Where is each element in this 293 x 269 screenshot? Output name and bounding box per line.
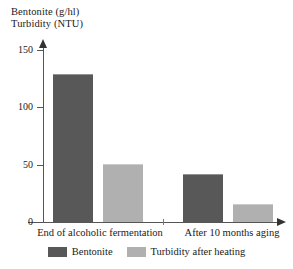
category-divider-tick [163,219,164,225]
y-tick-label-100: 100 [3,102,33,112]
bar-turbidity-after-10-months [233,204,273,222]
legend-label-bentonite: Bentonite [72,246,113,258]
bar-bentonite-after-10-months [183,174,223,222]
y-tick-label-150: 150 [3,45,33,55]
x-axis-line [28,222,279,223]
legend-item-turbidity-after-heating: Turbidity after heating [127,246,246,258]
y-tick-mark-0 [37,222,43,223]
chart-legend: Bentonite Turbidity after heating [0,246,293,258]
y-tick-label-50: 50 [3,160,33,170]
x-axis-arrow-icon [277,218,286,226]
bar-chart: Bentonite (g/hl) Turbidity (NTU) 0 50 10… [0,0,293,269]
legend-swatch-bentonite [48,247,67,257]
y-axis-line [43,47,44,222]
legend-label-turbidity-after-heating: Turbidity after heating [151,246,246,258]
bar-turbidity-end-of-fermentation [103,164,143,222]
y-tick-mark-50 [37,165,43,166]
legend-swatch-turbidity-after-heating [127,247,146,257]
x-axis-category-label-1: After 10 months aging [172,226,292,239]
legend-item-bentonite: Bentonite [48,246,113,258]
bar-bentonite-end-of-fermentation [53,74,93,222]
plot-area: 0 50 100 150 End of alcoholic fermentati… [0,0,293,269]
x-axis-category-label-0: End of alcoholic fermentation [20,226,180,239]
y-tick-mark-100 [37,107,43,108]
y-tick-mark-150 [37,50,43,51]
y-axis-arrow-icon [39,39,47,48]
